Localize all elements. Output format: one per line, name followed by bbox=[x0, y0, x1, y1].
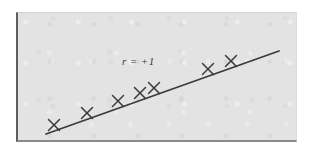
data-point-marker bbox=[203, 64, 214, 75]
figure-root: r = +1 bbox=[0, 0, 311, 157]
correlation-coefficient-label: r = +1 bbox=[122, 56, 155, 67]
plot-panel: r = +1 bbox=[16, 12, 297, 142]
trend-line bbox=[46, 51, 279, 134]
data-point-marker bbox=[226, 56, 237, 67]
data-point-marker bbox=[135, 88, 146, 99]
data-point-marker bbox=[113, 96, 124, 107]
data-point-marker bbox=[82, 108, 93, 119]
data-point-marker bbox=[149, 83, 160, 94]
scatter-plot-canvas bbox=[18, 13, 299, 143]
data-point-marker bbox=[49, 120, 60, 131]
